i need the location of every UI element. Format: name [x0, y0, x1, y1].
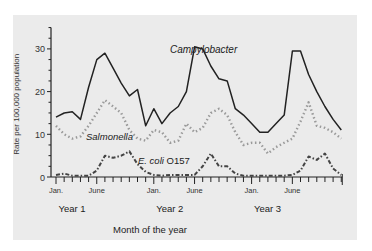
x-tick-label: Jan. [245, 186, 259, 195]
x-axis-title: Month of the year [113, 224, 187, 235]
year-label: Year 2 [156, 203, 183, 214]
year-label: Year 1 [58, 203, 85, 214]
y-tick-label: 20 [35, 87, 45, 97]
series-line-e-coli-o157 [56, 151, 341, 175]
x-tick-label: Jan. [147, 186, 161, 195]
x-tick-label: June [89, 186, 105, 195]
label-salmonella: Salmonella [86, 131, 133, 142]
x-tick-label: Jan. [49, 186, 63, 195]
y-tick-label: 30 [35, 44, 45, 54]
y-tick-label: 10 [35, 130, 45, 140]
x-tick-label: June [186, 186, 202, 195]
label-campylobacter: Campylobacter [170, 44, 238, 55]
label-ecoli: E. coli O157 [138, 155, 190, 166]
line-chart: 0102030Rate per 100,000 populationJan.Ju… [0, 0, 372, 251]
y-axis-title: Rate per 100,000 population [12, 54, 21, 155]
y-tick-label: 0 [40, 173, 45, 183]
year-label: Year 3 [254, 203, 281, 214]
series-line-campylobacter [56, 47, 341, 132]
x-tick-label: June [284, 186, 300, 195]
series-line-salmonella [56, 100, 341, 153]
